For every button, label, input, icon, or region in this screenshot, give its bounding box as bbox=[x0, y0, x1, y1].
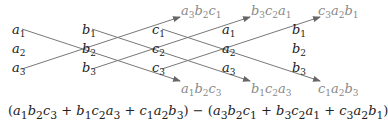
entry-b3: b3 bbox=[82, 61, 96, 77]
entry-b2-repeat: b2 bbox=[292, 42, 306, 58]
product-b1c2a3: b1c2a3 bbox=[251, 82, 292, 98]
product-c3a2b1: c3a2b1 bbox=[318, 4, 359, 20]
product-b3c2a1: b3c2a1 bbox=[251, 4, 292, 20]
entry-c1: c1 bbox=[152, 23, 165, 39]
product-a1b2c3: a1b2c3 bbox=[181, 82, 222, 98]
entry-a1-repeat: a1 bbox=[222, 23, 236, 39]
entry-b2: b2 bbox=[82, 42, 96, 58]
entry-b1-repeat: b1 bbox=[292, 23, 306, 39]
product-a3b2c1: a3b2c1 bbox=[181, 4, 222, 20]
product-c1a2b3: c1a2b3 bbox=[318, 82, 359, 98]
entry-c2: c2 bbox=[152, 42, 165, 58]
determinant-formula: (a1b2c3 + b1c2a3 + c1a2b3) − (a3b2c1 + b… bbox=[8, 103, 388, 122]
entry-a3: a3 bbox=[12, 61, 26, 77]
entry-b3-repeat: b3 bbox=[292, 61, 306, 77]
entry-a3-repeat: a3 bbox=[222, 61, 236, 77]
entry-c3: c3 bbox=[152, 61, 165, 77]
entry-a2-repeat: a2 bbox=[222, 42, 236, 58]
entry-a1: a1 bbox=[12, 23, 26, 39]
entry-b1: b1 bbox=[82, 23, 96, 39]
entry-a2: a2 bbox=[12, 42, 26, 58]
